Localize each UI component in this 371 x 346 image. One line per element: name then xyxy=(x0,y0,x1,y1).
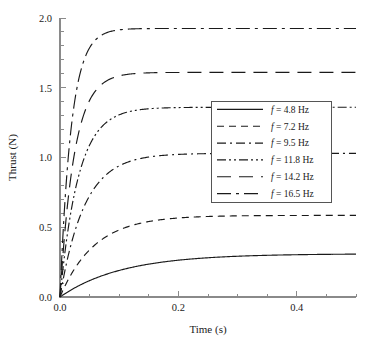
y-tick-label: 0.0 xyxy=(39,292,52,303)
x-axis-title: Time (s) xyxy=(189,323,227,336)
legend-label-7-2hz: f = 7.2 Hz xyxy=(271,122,309,132)
series-line-7-2hz xyxy=(60,215,356,297)
x-tick-label: 0.0 xyxy=(53,302,66,313)
legend-label-4-8hz: f = 4.8 Hz xyxy=(271,105,309,115)
y-tick-label: 0.5 xyxy=(39,222,52,233)
y-tick-label: 1.5 xyxy=(39,83,52,94)
legend-label-11-8hz: f = 11.8 Hz xyxy=(271,155,313,165)
y-tick-label: 1.0 xyxy=(39,152,52,163)
legend-label-9-5hz: f = 9.5 Hz xyxy=(271,138,309,148)
legend: f = 4.8 Hzf = 7.2 Hzf = 9.5 Hzf = 11.8 H… xyxy=(211,101,331,202)
x-tick-label: 0.2 xyxy=(172,302,185,313)
thrust-vs-time-chart: 0.00.51.01.52.00.00.20.4 Time (s)Thrust … xyxy=(0,0,371,346)
legend-label-14-2hz: f = 14.2 Hz xyxy=(271,172,314,182)
legend-label-16-5hz: f = 16.5 Hz xyxy=(271,189,314,199)
y-tick-label: 2.0 xyxy=(39,13,52,24)
chart-svg: 0.00.51.01.52.00.00.20.4 Time (s)Thrust … xyxy=(0,0,371,346)
legend-box xyxy=(211,101,331,202)
axis-titles-group: Time (s)Thrust (N) xyxy=(6,134,227,336)
y-axis-title: Thrust (N) xyxy=(6,134,19,181)
series-line-4-8hz xyxy=(60,254,356,297)
x-tick-label: 0.4 xyxy=(290,302,304,313)
